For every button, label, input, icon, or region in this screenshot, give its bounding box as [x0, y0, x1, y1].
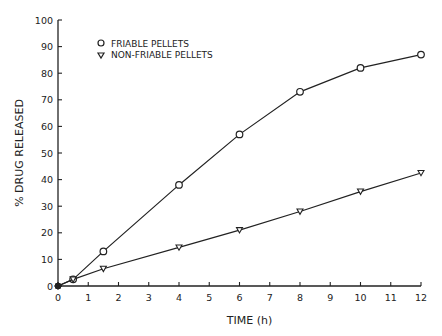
y-tick-label: 70: [41, 94, 53, 105]
legend-label-friable: FRIABLE PELLETS: [111, 39, 189, 49]
x-tick-label: 7: [267, 292, 273, 303]
data-point: [176, 182, 183, 189]
y-tick-label: 30: [41, 201, 53, 212]
y-tick-label: 20: [41, 227, 53, 238]
data-point: [357, 65, 364, 72]
y-tick-label: 0: [47, 281, 53, 292]
x-tick-label: 3: [146, 292, 152, 303]
data-point: [100, 266, 106, 271]
data-point: [176, 245, 182, 250]
data-point: [100, 248, 107, 255]
x-tick-label: 8: [297, 292, 303, 303]
x-tick-label: 9: [327, 292, 333, 303]
legend-item-friable: FRIABLE PELLETS: [98, 39, 189, 49]
y-axis-title: % DRUG RELEASED: [13, 99, 26, 207]
x-tick-label: 2: [115, 292, 121, 303]
data-point: [418, 170, 424, 175]
data-point: [358, 189, 364, 194]
x-tick-label: 12: [415, 292, 427, 303]
y-tick-label: 80: [41, 68, 53, 79]
data-point: [297, 89, 304, 96]
data-point: [237, 228, 243, 233]
data-point: [418, 51, 425, 58]
triangle-marker-icon: [98, 53, 104, 58]
y-tick-label: 50: [41, 148, 53, 159]
drug-release-chart: 0102030405060708090100 0123456789101112 …: [0, 0, 442, 336]
x-tick-label: 6: [236, 292, 242, 303]
origin-point: [55, 283, 61, 289]
x-tick-label: 5: [206, 292, 212, 303]
legend-item-non-friable: NON-FRIABLE PELLETS: [98, 50, 213, 60]
x-tick-label: 10: [354, 292, 366, 303]
y-axis: 0102030405060708090100: [35, 15, 62, 292]
data-point: [236, 131, 243, 138]
x-axis-title: TIME (h): [226, 314, 272, 327]
x-axis: 0123456789101112: [55, 282, 427, 303]
series-non-friable: [55, 170, 424, 289]
y-tick-label: 60: [41, 121, 53, 132]
legend: FRIABLE PELLETS NON-FRIABLE PELLETS: [98, 39, 213, 61]
series-layer: [55, 51, 424, 289]
y-tick-label: 90: [41, 41, 53, 52]
legend-label-non-friable: NON-FRIABLE PELLETS: [111, 50, 213, 60]
x-tick-label: 11: [385, 292, 397, 303]
x-tick-label: 1: [85, 292, 91, 303]
series-friable: [55, 51, 424, 289]
y-tick-label: 40: [41, 174, 53, 185]
y-tick-label: 10: [41, 254, 53, 265]
circle-marker-icon: [98, 40, 104, 46]
y-tick-label: 100: [35, 15, 53, 26]
data-point: [297, 209, 303, 214]
x-tick-label: 4: [176, 292, 182, 303]
x-tick-label: 0: [55, 292, 61, 303]
